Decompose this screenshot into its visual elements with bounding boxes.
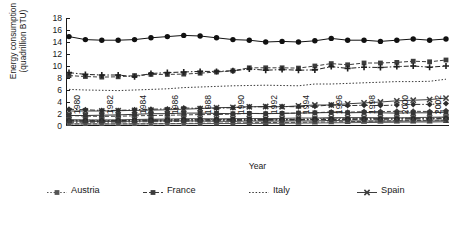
y-axis-title-line2: (quadrillion BTU) xyxy=(18,10,28,73)
legend-item-italy[interactable]: Italy xyxy=(248,182,356,198)
plot-svg xyxy=(66,18,449,126)
x-tick-label: 1992 xyxy=(270,95,279,129)
x-axis-title: Year xyxy=(66,161,449,171)
legend-label: Italy xyxy=(273,185,290,195)
plot-area xyxy=(66,18,449,126)
x-axis-tick-labels: 1980198219841986198819901992199419961998… xyxy=(66,129,449,163)
legend-item-austria[interactable]: Austria xyxy=(46,182,142,198)
y-axis-tick-labels: 181614121086420 xyxy=(44,0,62,140)
legend-label: France xyxy=(167,185,196,195)
chart-legend: AustriaFranceItalySpainBelgiumGermanyNet… xyxy=(46,182,446,244)
legend-item-france[interactable]: France xyxy=(142,182,248,198)
series-spain xyxy=(66,96,448,114)
x-tick-label: 1994 xyxy=(302,95,311,129)
y-tick-label: 16 xyxy=(46,26,62,35)
y-tick-label: 2 xyxy=(46,110,62,119)
x-tick-label: 1988 xyxy=(204,95,213,129)
x-tick-label: 2002 xyxy=(434,95,443,129)
y-axis-title: Energy consumption (quadrillion BTU) xyxy=(3,0,33,97)
x-tick-label: 1984 xyxy=(139,95,148,129)
y-tick-label: 4 xyxy=(46,98,62,107)
legend-key-square-icon xyxy=(46,184,68,195)
y-tick-label: 6 xyxy=(46,86,62,95)
energy-consumption-line-chart: Energy consumption (quadrillion BTU) 181… xyxy=(0,0,463,250)
x-tick-label: 1980 xyxy=(73,95,82,129)
legend-label: Austria xyxy=(71,185,100,195)
series-france xyxy=(67,58,449,80)
y-tick-label: 0 xyxy=(46,122,62,131)
y-tick-label: 10 xyxy=(46,62,62,71)
x-tick-label: 2000 xyxy=(401,95,410,129)
x-tick-label: 1990 xyxy=(237,95,246,129)
x-tick-label: 1996 xyxy=(335,95,344,129)
series-italy xyxy=(69,79,446,90)
legend-key-square-icon xyxy=(142,184,164,195)
series-germany xyxy=(66,33,448,45)
y-tick-label: 8 xyxy=(46,74,62,83)
legend-item-spain[interactable]: Spain xyxy=(356,182,463,198)
y-tick-label: 18 xyxy=(46,14,62,23)
series-united-kingdom xyxy=(66,63,449,80)
legend-label: Spain xyxy=(381,185,405,195)
x-tick-label: 1986 xyxy=(171,95,180,129)
x-tick-label: 1998 xyxy=(368,95,377,129)
y-tick-label: 14 xyxy=(46,38,62,47)
y-axis-title-line1: Energy consumption xyxy=(8,3,18,79)
legend-key-line-icon xyxy=(248,184,270,195)
legend-key-x-icon xyxy=(356,184,378,195)
x-tick-label: 1982 xyxy=(106,95,115,129)
y-tick-label: 12 xyxy=(46,50,62,59)
